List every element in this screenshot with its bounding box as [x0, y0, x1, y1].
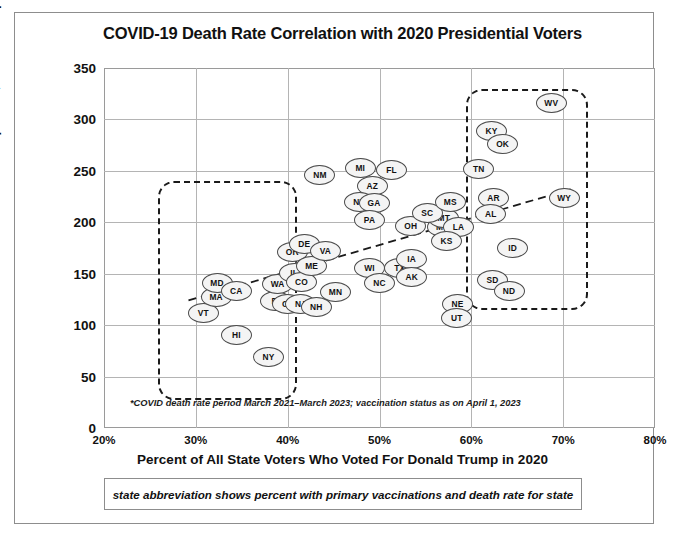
scatter-point-tn[interactable]: TN	[463, 159, 494, 179]
x-tick-label: 60%	[448, 434, 494, 446]
scatter-point-ny[interactable]: NY	[253, 347, 284, 367]
x-tick-label: 30%	[173, 434, 219, 446]
x-tick-label: 80%	[632, 434, 678, 446]
page-title: COVID-19 Death Rate Correlation with 202…	[0, 24, 685, 43]
x-tick-label: 40%	[265, 434, 311, 446]
scatter-point-mi[interactable]: MI	[345, 158, 376, 178]
scatter-point-wy[interactable]: WY	[549, 188, 580, 208]
y-tick-label: 50	[52, 369, 96, 384]
x-tick-label: 50%	[357, 434, 403, 446]
y-tick-label: 300	[52, 112, 96, 127]
scatter-point-ak[interactable]: AK	[396, 267, 427, 287]
x-axis-title: Percent of All State Voters Who Voted Fo…	[0, 452, 685, 467]
scatter-point-id[interactable]: ID	[497, 238, 528, 258]
y-tick-label: 250	[52, 163, 96, 178]
x-tick-label: 20%	[81, 434, 127, 446]
scatter-point-wv[interactable]: WV	[536, 93, 567, 113]
trendline	[104, 68, 655, 428]
y-axis-title: Deaths per 100,000 State Population*	[0, 0, 1, 248]
scatter-point-ca[interactable]: CA	[221, 281, 252, 301]
scatter-point-va[interactable]: VA	[310, 241, 341, 261]
footnote: *COVID death rate period March 2021–Marc…	[130, 398, 521, 408]
scatter-point-nd[interactable]: ND	[494, 281, 525, 301]
plot-area-wrapper: 050100150200250300350 20%30%40%50%60%70%…	[104, 68, 655, 428]
scatter-point-ut[interactable]: UT	[441, 308, 472, 328]
y-tick-label: 200	[52, 215, 96, 230]
y-tick-label: 350	[52, 61, 96, 76]
scatter-point-ms[interactable]: MS	[435, 192, 466, 212]
scatter-point-ks[interactable]: KS	[431, 231, 462, 251]
y-tick-label: 100	[52, 318, 96, 333]
scatter-point-al[interactable]: AL	[475, 204, 506, 224]
caption-box: state abbreviation shows percent with pr…	[104, 478, 582, 510]
y-tick-label: 150	[52, 266, 96, 281]
caption-text: state abbreviation shows percent with pr…	[113, 488, 574, 501]
x-tick-label: 70%	[540, 434, 586, 446]
